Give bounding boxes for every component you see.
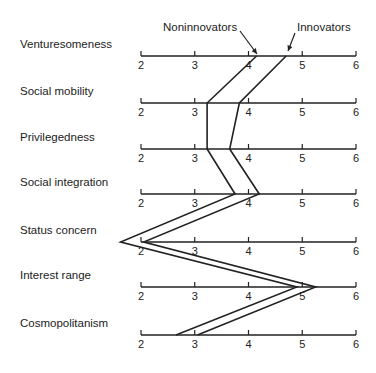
tick-label: 2: [138, 245, 144, 257]
tick-label: 6: [353, 152, 359, 164]
tick-label: 4: [245, 152, 251, 164]
tick-label: 4: [245, 59, 251, 71]
row-label: Privilegedness: [20, 131, 95, 143]
tick-label: 2: [138, 152, 144, 164]
axis-venturesomeness: [141, 51, 356, 56]
tick-label: 3: [192, 152, 198, 164]
row-label: Cosmopolitanism: [20, 317, 108, 329]
tick-label: 3: [192, 290, 198, 302]
tick-label: 2: [138, 197, 144, 209]
tick-label: 5: [299, 106, 305, 118]
tick-label: 6: [353, 245, 359, 257]
tick-label: 5: [299, 245, 305, 257]
tick-label: 2: [138, 290, 144, 302]
tick-label: 2: [138, 338, 144, 350]
row-label: Interest range: [20, 269, 91, 281]
row-label: Social integration: [20, 176, 108, 188]
axis-social-mobility: [141, 98, 356, 103]
axis-privilegedness: [141, 144, 356, 149]
tick-label: 5: [299, 338, 305, 350]
legend-innovators: Innovators: [297, 21, 351, 33]
tick-label: 2: [138, 106, 144, 118]
tick-label: 6: [353, 106, 359, 118]
tick-label: 5: [299, 290, 305, 302]
tick-label: 5: [299, 59, 305, 71]
tick-label: 4: [245, 245, 251, 257]
tick-label: 3: [192, 245, 198, 257]
tick-label: 3: [192, 338, 198, 350]
tick-label: 5: [299, 197, 305, 209]
tick-label: 6: [353, 290, 359, 302]
axis-cosmopolitanism: [141, 330, 356, 335]
axis-social-integration: [141, 189, 356, 194]
tick-label: 5: [299, 152, 305, 164]
row-label: Social mobility: [20, 85, 94, 97]
axis-interest-range: [141, 282, 356, 287]
tick-label: 2: [138, 59, 144, 71]
series-noninnovators: [121, 56, 297, 335]
legend-noninnovators: Noninnovators: [163, 21, 237, 33]
axis-status-concern: [141, 237, 356, 242]
tick-label: 6: [353, 59, 359, 71]
tick-label: 4: [245, 290, 251, 302]
arrow-noninnovators-icon-head: [252, 48, 257, 54]
row-label: Venturesomeness: [20, 38, 112, 50]
tick-label: 6: [353, 338, 359, 350]
tick-label: 4: [245, 338, 251, 350]
tick-label: 4: [245, 197, 251, 209]
tick-label: 3: [192, 59, 198, 71]
tick-label: 3: [192, 106, 198, 118]
row-label: Status concern: [20, 224, 97, 236]
tick-label: 4: [245, 106, 251, 118]
tick-label: 6: [353, 197, 359, 209]
tick-label: 3: [192, 197, 198, 209]
